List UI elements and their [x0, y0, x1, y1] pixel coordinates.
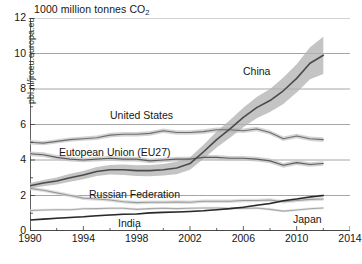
x-tick-label-2002: 2002	[170, 233, 210, 244]
chart-canvas	[30, 18, 350, 231]
y-tick-label-4: 4	[4, 154, 26, 165]
series-label-russian-federation: Russian Federation	[89, 189, 180, 200]
series-label-united-states: United States	[110, 110, 173, 121]
series-label-european-union: Eutopean Union (EU27)	[59, 147, 171, 158]
y-tick-label-6: 6	[4, 119, 26, 130]
x-tick-label-2014: 2014	[330, 233, 362, 244]
series-label-china: China	[243, 66, 270, 77]
y-axis-tick-labels: 024681012	[0, 18, 26, 231]
x-tick-label-2006: 2006	[223, 233, 263, 244]
y-tick-label-12: 12	[4, 12, 26, 23]
y-tick-label-10: 10	[4, 48, 26, 59]
watermark-label: pbl.nl/jrceu.europa.eu	[26, 17, 36, 104]
chart-title: 1000 million tonnes CO2	[34, 3, 150, 15]
series-label-japan: Japan	[293, 214, 322, 225]
uncertainty-band-united-states	[30, 127, 323, 146]
x-tick-label-1990: 1990	[10, 233, 50, 244]
chart-figure: 1000 million tonnes CO2 024681012 199019…	[0, 0, 362, 264]
series-label-india: India	[118, 218, 141, 229]
y-tick-label-8: 8	[4, 83, 26, 94]
chart-title-text: 1000 million tonnes CO	[34, 3, 145, 15]
y-tick-label-2: 2	[4, 190, 26, 201]
x-tick-label-2010: 2010	[277, 233, 317, 244]
plot-area	[30, 18, 350, 231]
chart-title-subscript: 2	[145, 8, 149, 17]
x-axis-tick-labels: 1990199419982002200620102014	[0, 233, 362, 249]
x-tick-label-1998: 1998	[117, 233, 157, 244]
x-tick-label-1994: 1994	[63, 233, 103, 244]
